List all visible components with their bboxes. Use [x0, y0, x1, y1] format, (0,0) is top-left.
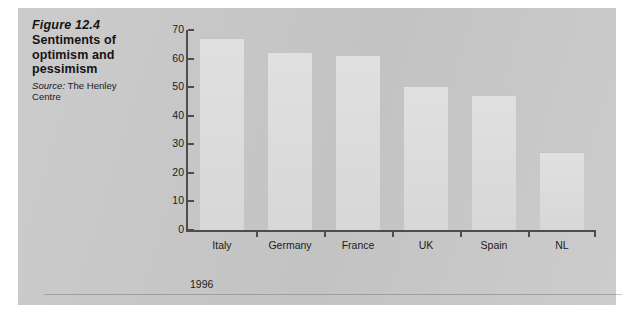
plot-axes: 010203040506070 ItalyGermanyFranceUKSpai… [186, 30, 596, 232]
figure-panel: Figure 12.4 Sentiments of optimism and p… [18, 8, 616, 305]
y-axis-tick-label: 0 [154, 223, 184, 235]
figure-number: Figure 12.4 [32, 18, 138, 32]
figure-source: Source: The Henley Centre [32, 80, 138, 103]
bar [540, 152, 585, 230]
y-axis-tick-mark [188, 200, 194, 202]
y-axis-tick-label: 50 [154, 80, 184, 92]
y-axis-tick-mark [188, 172, 194, 174]
y-axis-tick-mark [188, 86, 194, 88]
x-axis-tick-label: UK [419, 239, 434, 251]
bar [404, 86, 449, 230]
x-axis-tick-label: France [342, 239, 375, 251]
figure-container: Figure 12.4 Sentiments of optimism and p… [0, 0, 629, 315]
y-axis-tick-mark [188, 29, 194, 31]
x-axis-tick-label: Italy [212, 239, 231, 251]
bar [472, 95, 517, 230]
x-axis-tick-mark [594, 230, 596, 237]
x-axis-tick-mark [256, 230, 258, 237]
bar [336, 55, 381, 230]
x-axis-tick-mark [324, 230, 326, 237]
x-axis-tick-mark [460, 230, 462, 237]
x-axis-tick-label: Germany [268, 239, 311, 251]
y-axis-tick-mark [188, 115, 194, 117]
y-axis-tick-mark [188, 143, 194, 145]
y-axis-tick-label: 30 [154, 137, 184, 149]
figure-title: Sentiments of optimism and pessimism [32, 33, 138, 77]
x-axis-tick-mark [528, 230, 530, 237]
source-word: Source: [32, 80, 65, 91]
figure-caption: Figure 12.4 Sentiments of optimism and p… [32, 18, 138, 103]
y-axis-tick-mark [188, 229, 194, 231]
y-axis-tick-label: 20 [154, 166, 184, 178]
x-axis-tick-label: NL [555, 239, 568, 251]
y-axis-tick-label: 70 [154, 23, 184, 35]
bar-chart: 010203040506070 ItalyGermanyFranceUKSpai… [168, 22, 596, 254]
footer-divider [44, 294, 622, 295]
bar [200, 38, 245, 230]
series-label-1996: 1996 [190, 278, 213, 290]
x-axis-tick-label: Spain [481, 239, 508, 251]
y-axis-tick-label: 60 [154, 52, 184, 64]
y-axis-tick-label: 40 [154, 109, 184, 121]
bar [268, 52, 313, 230]
x-axis-tick-mark [392, 230, 394, 237]
y-axis-tick-mark [188, 58, 194, 60]
y-axis-tick-label: 10 [154, 194, 184, 206]
